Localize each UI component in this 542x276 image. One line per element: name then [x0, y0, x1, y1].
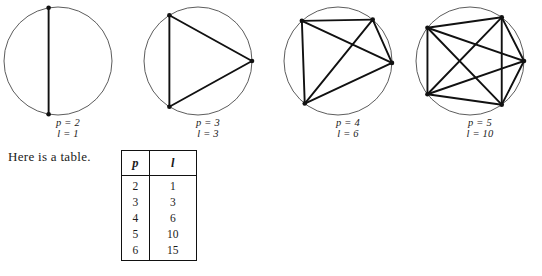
- figure-circle-p3: p = 3l = 3: [140, 0, 276, 145]
- circle-p3-diagram: [140, 2, 276, 118]
- graph-vertex: [302, 101, 307, 106]
- cell-p: 2: [122, 176, 150, 195]
- graph-edge: [169, 15, 252, 61]
- cell-p: 4: [122, 210, 150, 226]
- cell-p: 6: [122, 242, 150, 261]
- graph-vertex: [46, 6, 51, 11]
- caption-points: p = 2: [0, 117, 136, 128]
- circle-outline: [4, 7, 112, 115]
- graph-vertex: [46, 112, 51, 117]
- graph-edge: [305, 20, 373, 104]
- cell-l: 1: [149, 176, 196, 195]
- graph-vertex: [250, 59, 255, 64]
- figure-circle-p4: p = 4l = 6: [280, 0, 416, 145]
- graph-edge: [373, 20, 392, 63]
- circle-p3-caption: p = 3l = 3: [140, 117, 276, 140]
- graph-vertex: [499, 102, 504, 107]
- intro-text: Here is a table.: [8, 149, 91, 165]
- cell-l: 6: [149, 210, 196, 226]
- graph-vertex: [370, 17, 375, 22]
- caption-points: p = 4: [280, 117, 416, 128]
- circle-p5-caption: p = 5l = 10: [412, 117, 542, 140]
- table-body: 213346510615: [122, 176, 197, 261]
- caption-lines: l = 10: [412, 128, 542, 139]
- circle-p4-diagram: [280, 2, 416, 118]
- graph-edge: [302, 21, 392, 63]
- figure-circle-p5: p = 5l = 10: [412, 0, 542, 145]
- graph-edge: [169, 61, 252, 107]
- graph-edge: [427, 28, 501, 105]
- caption-lines: l = 3: [140, 128, 276, 139]
- graph-edge: [302, 21, 305, 104]
- pl-table: p l 213346510615: [121, 150, 197, 261]
- table-row: 510: [122, 226, 197, 242]
- graph-edge: [427, 17, 501, 94]
- figure-circle-p2: p = 2l = 1: [0, 0, 136, 145]
- cell-p: 3: [122, 194, 150, 210]
- graph-edge: [305, 63, 392, 104]
- circle-p5-diagram: [412, 2, 542, 118]
- table-row: 615: [122, 242, 197, 261]
- cell-l: 3: [149, 194, 196, 210]
- column-header-p: p: [122, 151, 150, 176]
- table-container: p l 213346510615: [121, 150, 197, 261]
- column-header-l: l: [149, 151, 196, 176]
- cell-p: 5: [122, 226, 150, 242]
- caption-lines: l = 1: [0, 128, 136, 139]
- graph-vertex: [167, 104, 172, 109]
- graph-vertex: [300, 19, 305, 24]
- graph-vertex: [425, 92, 430, 97]
- table-row: 46: [122, 210, 197, 226]
- table-header: p l: [122, 151, 197, 176]
- circle-p2-diagram: [0, 2, 136, 118]
- graph-edge: [427, 17, 501, 27]
- figure-row: p = 2l = 1p = 3l = 3p = 4l = 6p = 5l = 1…: [0, 0, 542, 145]
- graph-vertex: [390, 61, 395, 66]
- cell-l: 15: [149, 242, 196, 261]
- graph-vertex: [499, 15, 504, 20]
- circle-p4-caption: p = 4l = 6: [280, 117, 416, 140]
- table-header-row: p l: [122, 151, 197, 176]
- table-row: 33: [122, 194, 197, 210]
- graph-edge: [427, 94, 501, 104]
- caption-lines: l = 6: [280, 128, 416, 139]
- graph-vertex: [425, 25, 430, 30]
- circle-p2-caption: p = 2l = 1: [0, 117, 136, 140]
- table-row: 21: [122, 176, 197, 195]
- graph-edge: [302, 20, 373, 21]
- circle-outline: [144, 7, 252, 115]
- graph-vertex: [167, 13, 172, 18]
- cell-l: 10: [149, 226, 196, 242]
- circle-outline: [416, 7, 524, 115]
- caption-points: p = 3: [140, 117, 276, 128]
- graph-vertex: [522, 59, 527, 64]
- caption-points: p = 5: [412, 117, 542, 128]
